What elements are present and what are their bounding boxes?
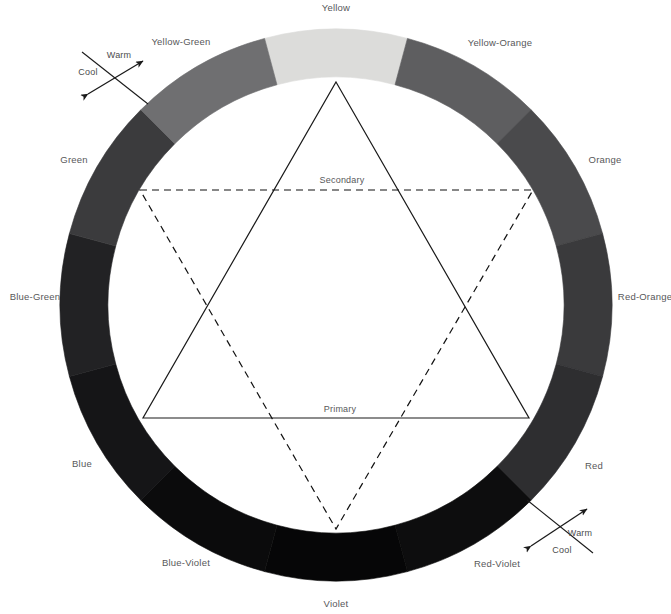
triangle-label-primary: Primary: [324, 405, 356, 414]
warm-label-upper-left: Warm: [107, 51, 131, 60]
color-wheel-diagram: YellowYellow-OrangeOrangeRed-OrangeRedRe…: [0, 0, 671, 614]
wheel-segment-red-orange[interactable]: [556, 234, 612, 377]
wheel-label-blue-green: Blue-Green: [10, 292, 61, 302]
wheel-segment-green[interactable]: [69, 110, 174, 246]
wheel-label-orange: Orange: [589, 155, 622, 165]
triangle-overlays: [140, 82, 533, 529]
triangle-label-secondary: Secondary: [320, 176, 365, 185]
wheel-label-red-violet: Red-Violet: [474, 559, 520, 569]
wheel-segment-blue[interactable]: [69, 364, 174, 500]
warm-cool-divider-line-upper-left: [82, 52, 148, 104]
cool-label-lower-right: Cool: [552, 546, 571, 555]
color-wheel-canvas: [0, 0, 671, 614]
wheel-label-red: Red: [585, 461, 603, 471]
wheel-label-yellow-green: Yellow-Green: [151, 37, 210, 47]
wheel-label-yellow-orange: Yellow-Orange: [468, 38, 533, 48]
wheel-label-yellow: Yellow: [322, 3, 350, 13]
wheel-segment-red[interactable]: [497, 364, 602, 500]
triangle-primary[interactable]: [143, 82, 529, 418]
wheel-segment-yellow-green[interactable]: [141, 38, 277, 143]
wheel-segment-blue-green[interactable]: [60, 234, 116, 377]
wheel-segment-violet[interactable]: [265, 525, 408, 581]
wheel-segment-orange[interactable]: [497, 110, 602, 246]
wheel-segment-yellow[interactable]: [265, 29, 408, 85]
wheel-label-blue-violet: Blue-Violet: [162, 558, 210, 568]
cool-label-upper-left: Cool: [78, 68, 97, 77]
wheel-label-green: Green: [60, 155, 87, 165]
wheel-label-blue: Blue: [72, 459, 92, 469]
triangle-secondary[interactable]: [140, 190, 533, 529]
warm-label-lower-right: Warm: [568, 529, 592, 538]
wheel-label-red-orange: Red-Orange: [618, 292, 671, 302]
wheel-segment-red-violet[interactable]: [395, 466, 531, 571]
wheel-segment-yellow-orange[interactable]: [395, 38, 531, 143]
wheel-segment-blue-violet[interactable]: [141, 466, 277, 571]
color-ring: [60, 29, 612, 581]
wheel-label-violet: Violet: [324, 599, 349, 609]
